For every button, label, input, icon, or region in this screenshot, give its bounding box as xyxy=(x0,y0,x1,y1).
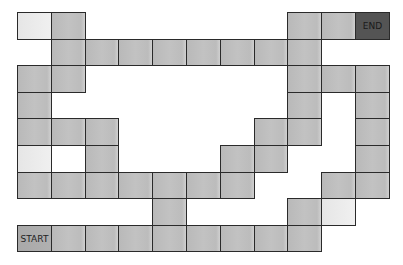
board-square[interactable] xyxy=(17,92,52,119)
board-square[interactable] xyxy=(321,12,356,40)
board-square[interactable] xyxy=(152,39,187,66)
end-square[interactable]: END xyxy=(355,12,390,40)
board-square[interactable] xyxy=(254,145,288,173)
start-square[interactable]: START xyxy=(17,225,52,252)
start-label: START xyxy=(21,234,49,244)
board-square[interactable] xyxy=(118,225,153,252)
board-square[interactable] xyxy=(186,225,221,252)
game-board: ENDSTART xyxy=(0,0,403,265)
board-square[interactable] xyxy=(51,39,86,66)
board-square[interactable] xyxy=(51,118,86,146)
board-square[interactable] xyxy=(355,145,390,173)
board-square[interactable] xyxy=(118,172,153,199)
board-square[interactable] xyxy=(51,172,86,199)
board-square[interactable] xyxy=(17,172,52,199)
board-square[interactable] xyxy=(186,172,221,199)
board-square[interactable] xyxy=(85,172,119,199)
board-square[interactable] xyxy=(287,12,322,40)
board-square[interactable] xyxy=(118,39,153,66)
board-square[interactable] xyxy=(287,118,322,146)
board-square[interactable] xyxy=(220,172,255,199)
board-square[interactable] xyxy=(152,225,187,252)
board-square[interactable] xyxy=(254,118,288,146)
board-square[interactable] xyxy=(355,118,390,146)
board-square[interactable] xyxy=(51,145,86,173)
board-square[interactable] xyxy=(220,145,255,173)
board-square[interactable] xyxy=(287,198,322,226)
board-square[interactable] xyxy=(321,198,356,226)
board-square[interactable] xyxy=(51,65,86,93)
board-square[interactable] xyxy=(85,118,119,146)
board-square[interactable] xyxy=(287,65,322,93)
board-square[interactable] xyxy=(321,65,356,93)
board-square[interactable] xyxy=(17,118,52,146)
board-square[interactable] xyxy=(85,145,119,173)
board-square[interactable] xyxy=(17,12,52,40)
board-square[interactable] xyxy=(17,145,52,173)
board-square[interactable] xyxy=(287,92,322,119)
board-square[interactable] xyxy=(152,172,187,199)
board-square[interactable] xyxy=(321,172,356,199)
board-square[interactable] xyxy=(17,65,52,93)
board-square[interactable] xyxy=(85,225,119,252)
board-square[interactable] xyxy=(355,92,390,119)
board-square[interactable] xyxy=(220,225,255,252)
board-square[interactable] xyxy=(287,225,322,252)
end-label: END xyxy=(363,21,382,31)
board-square[interactable] xyxy=(85,39,119,66)
board-square[interactable] xyxy=(51,12,86,40)
board-square[interactable] xyxy=(152,198,187,226)
board-square[interactable] xyxy=(51,225,86,252)
board-square[interactable] xyxy=(220,39,255,66)
board-square[interactable] xyxy=(355,172,390,199)
board-square[interactable] xyxy=(254,39,288,66)
board-square[interactable] xyxy=(186,39,221,66)
board-square[interactable] xyxy=(287,39,322,66)
board-square[interactable] xyxy=(254,225,288,252)
board-square[interactable] xyxy=(355,65,390,93)
